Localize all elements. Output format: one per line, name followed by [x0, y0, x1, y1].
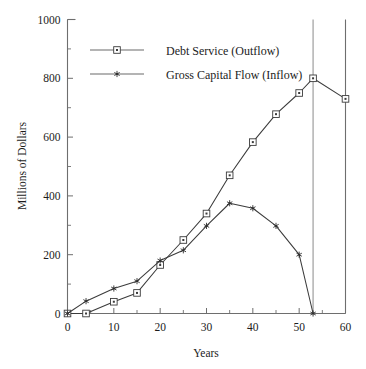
line-chart-canvas: 0102030405060 02004006008001000 Years Mi… — [0, 0, 366, 369]
y-tick-label: 0 — [55, 308, 61, 320]
chart-figure: 0102030405060 02004006008001000 Years Mi… — [0, 0, 366, 369]
data-point-square — [134, 290, 141, 297]
y-tick-label: 800 — [43, 72, 61, 84]
x-axis-title: Years — [193, 347, 219, 359]
x-tick-label: 40 — [247, 321, 259, 333]
legend-label: Debt Service (Outflow) — [166, 44, 279, 58]
legend-label: Gross Capital Flow (Inflow) — [166, 68, 302, 82]
data-point-square — [273, 111, 280, 118]
y-tick-label: 200 — [43, 249, 61, 261]
y-tick-label: 1000 — [38, 14, 61, 26]
x-tick-label: 20 — [154, 321, 166, 333]
x-tick-label: 10 — [108, 321, 120, 333]
data-point-square — [342, 96, 349, 103]
y-tick-label: 600 — [43, 131, 61, 143]
y-axis-title: Millions of Dollars — [16, 121, 28, 210]
y-tick-label: 400 — [43, 190, 61, 202]
data-point-square — [310, 75, 317, 82]
x-tick-label: 60 — [340, 321, 352, 333]
data-point-square — [250, 139, 257, 146]
data-point-square — [111, 298, 118, 305]
data-point-square — [296, 90, 303, 97]
data-point-square — [226, 172, 233, 179]
data-point-square — [203, 210, 210, 217]
x-tick-label: 0 — [65, 321, 71, 333]
data-point-square — [83, 310, 90, 317]
x-tick-label: 50 — [293, 321, 305, 333]
data-point-square — [114, 47, 121, 54]
x-tick-label: 30 — [201, 321, 213, 333]
data-point-square — [180, 237, 187, 244]
